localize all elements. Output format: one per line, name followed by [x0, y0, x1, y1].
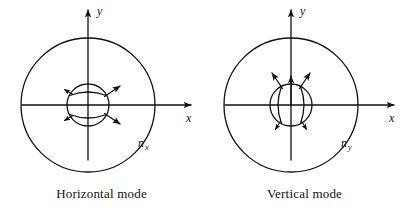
y-axis-label: y	[299, 4, 306, 18]
index-label-ny: n	[341, 136, 347, 150]
y-axis-label: y	[96, 4, 103, 18]
x-axis-label: x	[388, 111, 395, 125]
horizontal-mode-diagram: x y n x	[0, 0, 203, 190]
panel-horizontal-mode: x y n x Horizontal mode	[0, 0, 203, 216]
caption-vertical-mode: Vertical mode	[203, 186, 406, 202]
field-arrow-upper-right	[300, 73, 311, 89]
field-arrow-lower-left	[276, 122, 281, 130]
index-label-nx: n	[138, 136, 144, 150]
field-arrow-upper-right	[105, 86, 121, 97]
field-arrow-upper-left	[272, 73, 283, 89]
x-axis-label: x	[185, 111, 192, 125]
index-subscript-y: y	[347, 143, 352, 152]
field-arrow-lower-right	[302, 122, 307, 130]
caption-horizontal-mode: Horizontal mode	[0, 186, 203, 202]
index-subscript-x: x	[144, 143, 149, 152]
field-arrow-lower-right	[105, 114, 121, 125]
figure-root: x y n x Horizontal mode	[0, 0, 407, 216]
vertical-mode-diagram: x y n y	[203, 0, 406, 190]
panel-vertical-mode: x y n y Vertical mode	[203, 0, 406, 216]
